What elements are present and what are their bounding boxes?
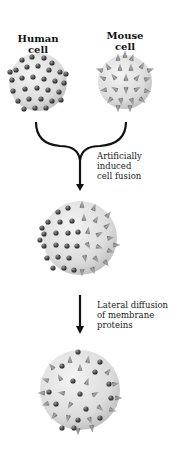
fusion-caption-line1: Artificially [97, 151, 179, 161]
diffusion-caption-line1: Lateral diffusion [97, 300, 179, 310]
human-cell [7, 53, 68, 112]
diffusion-arrow [76, 295, 84, 334]
fusion-caption-line2: induced [97, 161, 179, 171]
fusion-caption-line3: cell fusion [97, 171, 179, 181]
hybrid-cell-intermixed [38, 349, 123, 435]
hybrid-cell-segregated [37, 201, 120, 277]
diffusion-caption-line3: proteins [97, 320, 179, 330]
diffusion-caption: Lateral diffusion of membrane proteins [97, 300, 179, 330]
mouse-cell [95, 51, 155, 113]
fusion-caption: Artificially induced cell fusion [97, 151, 179, 181]
diffusion-caption-line2: of membrane [97, 310, 179, 320]
diagram-canvas [0, 0, 180, 456]
